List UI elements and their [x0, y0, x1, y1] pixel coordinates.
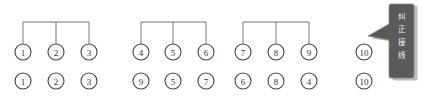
callout-char-4: 线 — [398, 50, 406, 60]
terminal-label: 9 — [139, 77, 144, 87]
terminal-bottom: 10 — [356, 73, 372, 89]
group-1-bus — [23, 22, 89, 44]
terminal-label: 4 — [307, 77, 312, 87]
terminal-label: 5 — [171, 77, 176, 87]
terminal-top: 10 — [356, 44, 372, 60]
terminal-label: 6 — [241, 77, 246, 87]
terminal-label: 2 — [54, 48, 59, 58]
wiring-diagram: 1122334955677688941010 纠 正 接 线 — [0, 0, 423, 100]
terminal-label: 1 — [21, 77, 26, 87]
terminal-label: 8 — [274, 77, 279, 87]
terminal-label: 9 — [307, 48, 312, 58]
terminal-top: 7 — [235, 44, 251, 60]
terminal-top: 8 — [268, 44, 284, 60]
terminal-bottom: 6 — [235, 73, 251, 89]
terminal-label: 7 — [241, 48, 246, 58]
terminal-bottom: 4 — [301, 73, 317, 89]
terminal-top: 9 — [301, 44, 317, 60]
terminal-label: 3 — [87, 48, 92, 58]
terminal-label: 10 — [360, 48, 370, 58]
terminal-bottom: 9 — [133, 73, 149, 89]
terminal-bottom: 1 — [15, 73, 31, 89]
terminal-label: 10 — [360, 77, 370, 87]
terminal-bottom: 5 — [165, 73, 181, 89]
terminal-label: 5 — [171, 48, 176, 58]
callout-shape — [368, 4, 414, 78]
terminal-top: 5 — [165, 44, 181, 60]
terminal-bottom: 3 — [81, 73, 97, 89]
terminal-bottom: 2 — [48, 73, 64, 89]
terminal-top: 1 — [15, 44, 31, 60]
callout-char-1: 纠 — [398, 12, 405, 21]
terminal-bottom: 7 — [198, 73, 214, 89]
terminal-bottom: 8 — [268, 73, 284, 89]
terminal-top: 6 — [198, 44, 214, 60]
callout-char-3: 接 — [398, 37, 406, 47]
terminal-label: 2 — [54, 77, 59, 87]
terminal-label: 7 — [204, 77, 209, 87]
terminal-label: 1 — [21, 48, 26, 58]
group-3-bus — [243, 22, 309, 44]
diagram-canvas: 1122334955677688941010 纠 正 接 线 — [0, 0, 423, 100]
terminal-label: 4 — [139, 48, 144, 58]
terminal-label: 3 — [87, 77, 92, 87]
terminal-top: 4 — [133, 44, 149, 60]
terminal-top: 3 — [81, 44, 97, 60]
group-2-bus — [141, 22, 206, 44]
terminal-label: 8 — [274, 48, 279, 58]
terminal-top: 2 — [48, 44, 64, 60]
callout: 纠 正 接 线 — [368, 4, 418, 81]
terminal-label: 6 — [204, 48, 209, 58]
callout-char-2: 正 — [398, 25, 406, 34]
